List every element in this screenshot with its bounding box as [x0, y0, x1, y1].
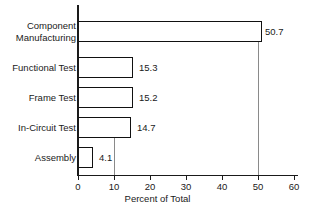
gridline-50 — [258, 42, 259, 175]
x-tick-label-10: 10 — [101, 181, 127, 192]
category-label-functional-test: Functional Test — [12, 62, 76, 74]
x-tick-label-50: 50 — [245, 181, 271, 192]
bar-frame-test — [78, 87, 133, 108]
bar-chart: Component Manufacturing Functional Test … — [0, 0, 315, 210]
x-tick-label-40: 40 — [209, 181, 235, 192]
x-tick-50 — [258, 176, 259, 180]
x-axis-title: Percent of Total — [0, 193, 315, 204]
x-tick-10 — [114, 176, 115, 180]
x-tick-label-30: 30 — [173, 181, 199, 192]
x-tick-0 — [78, 176, 79, 180]
x-tick-20 — [150, 176, 151, 180]
x-tick-label-60: 60 — [281, 181, 307, 192]
bar-value-component-manufacturing: 50.7 — [265, 26, 284, 37]
x-axis-line — [78, 175, 298, 176]
category-label-component-manufacturing: Component Manufacturing — [16, 20, 76, 43]
bar-value-assembly: 4.1 — [99, 152, 112, 163]
gridline-10 — [114, 133, 115, 175]
x-tick-30 — [186, 176, 187, 180]
bar-in-circuit-test — [78, 117, 131, 138]
category-label-in-circuit-test: In-Circuit Test — [18, 122, 76, 134]
bar-functional-test — [78, 57, 133, 78]
category-label-frame-test: Frame Test — [29, 92, 76, 104]
y-axis-line — [77, 5, 79, 176]
x-tick-label-0: 0 — [65, 181, 91, 192]
bar-value-functional-test: 15.3 — [139, 62, 158, 73]
x-tick-label-20: 20 — [137, 181, 163, 192]
bar-value-in-circuit-test: 14.7 — [137, 122, 156, 133]
x-tick-40 — [222, 176, 223, 180]
bar-assembly — [78, 147, 93, 168]
bar-component-manufacturing — [78, 21, 262, 42]
bar-value-frame-test: 15.2 — [139, 92, 158, 103]
x-tick-60 — [294, 176, 295, 180]
category-label-assembly: Assembly — [35, 152, 76, 164]
